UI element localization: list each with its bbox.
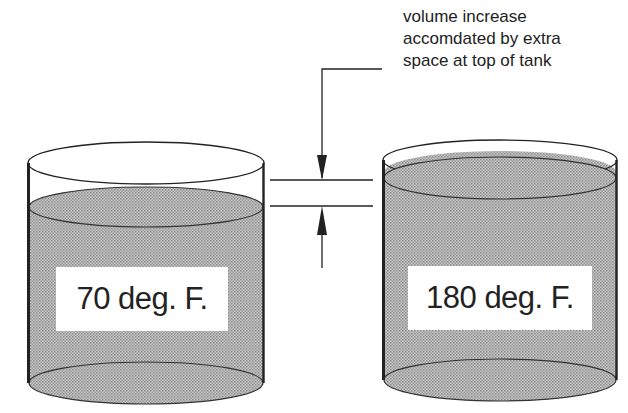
leader-line <box>322 69 382 178</box>
arrow-down-icon <box>317 155 327 180</box>
callout-line-3: space at top of tank <box>403 50 561 72</box>
callout-line-2: accomdated by extra <box>403 28 561 50</box>
liquid-surface-left <box>29 187 263 227</box>
tank-bottom-left <box>29 362 263 404</box>
tank-bottom-right <box>384 359 616 401</box>
dimension-indicator <box>270 69 382 268</box>
callout-line-1: volume increase <box>403 6 561 28</box>
callout-text: volume increase accomdated by extra spac… <box>403 6 561 72</box>
liquid-surface-right <box>384 157 616 199</box>
temperature-label-left: 70 deg. F. <box>56 267 228 331</box>
tank-rim-left <box>28 142 264 184</box>
temperature-label-right: 180 deg. F. <box>408 266 592 330</box>
